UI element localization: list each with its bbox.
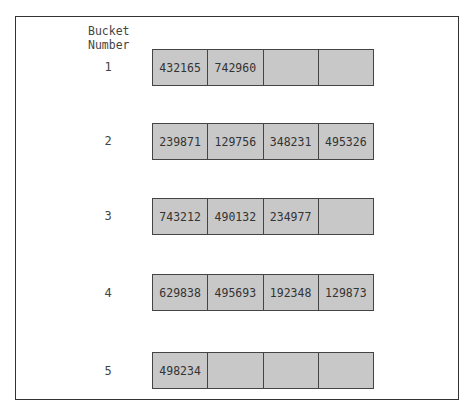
bucket-label-2: 2 [98,134,118,148]
bucket-row-3: 743212 490132 234977 [152,198,374,235]
bucket-cell: 192348 [264,275,319,310]
bucket-cell [208,353,263,388]
bucket-number-header: Bucket Number [88,24,130,52]
bucket-cell: 742960 [208,50,263,85]
bucket-row-4: 629838 495693 192348 129873 [152,274,374,311]
bucket-cell: 129873 [319,275,373,310]
bucket-cell: 498234 [153,353,208,388]
header-line-1: Bucket [88,24,130,38]
bucket-cell [319,50,373,85]
bucket-row-1: 432165 742960 [152,49,374,86]
header-line-2: Number [88,38,130,52]
bucket-cell [264,50,319,85]
bucket-cell: 348231 [264,124,319,159]
bucket-cell: 432165 [153,50,208,85]
bucket-label-3: 3 [98,209,118,223]
bucket-cell [319,199,373,234]
bucket-label-4: 4 [98,286,118,300]
bucket-label-1: 1 [98,60,118,74]
bucket-row-2: 239871 129756 348231 495326 [152,123,374,160]
bucket-cell: 743212 [153,199,208,234]
bucket-cell: 239871 [153,124,208,159]
bucket-row-5: 498234 [152,352,374,389]
bucket-cell [264,353,319,388]
bucket-cell: 490132 [208,199,263,234]
bucket-label-5: 5 [98,364,118,378]
bucket-cell: 495693 [208,275,263,310]
bucket-cell: 629838 [153,275,208,310]
bucket-cell: 495326 [319,124,373,159]
bucket-cell: 129756 [208,124,263,159]
bucket-cell: 234977 [264,199,319,234]
bucket-cell [319,353,373,388]
